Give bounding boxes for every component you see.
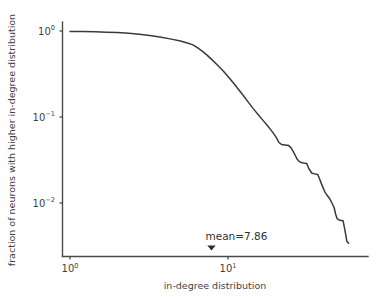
mean-annotation-label: mean=7.86: [205, 230, 267, 242]
x-tick-label-1: 101: [220, 262, 237, 275]
y-tick-label-1: 10−1: [33, 110, 55, 123]
ccdf-curve: [70, 31, 349, 243]
mean-marker-triangle: [207, 246, 215, 251]
x-axis-label: in-degree distribution: [164, 280, 267, 291]
y-tick-label-0: 100: [38, 24, 55, 37]
chart-figure: 100 101 100 10−1 10−2 mean=7.86 in-degre…: [0, 0, 377, 297]
log-log-plot: 100 101 100 10−1 10−2 mean=7.86 in-degre…: [0, 0, 377, 297]
y-tick-label-2: 10−2: [33, 196, 55, 209]
y-axis-label: fraction of neurons with higher in-degre…: [6, 14, 17, 266]
x-tick-label-0: 100: [62, 262, 79, 275]
